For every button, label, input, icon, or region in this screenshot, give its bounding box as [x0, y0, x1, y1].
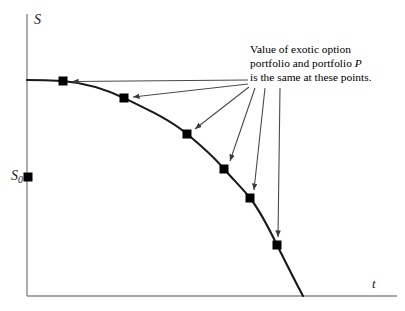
data-markers-group — [24, 77, 282, 250]
figure-container: S t S0 Value of exotic option portfolio … — [0, 0, 405, 311]
data-marker-point-6 — [273, 241, 282, 250]
data-marker-point-2 — [120, 94, 129, 103]
arrow-to-point-5 — [254, 88, 265, 190]
initial-price-label-base: S — [11, 168, 18, 183]
annotation-text: Value of exotic option portfolio and por… — [250, 42, 402, 84]
data-marker-point-5 — [246, 194, 255, 203]
data-marker-point-4 — [220, 165, 229, 174]
initial-price-label: S0 — [11, 169, 23, 185]
asset-price-curve — [27, 80, 303, 296]
data-marker-point-1 — [59, 77, 68, 86]
annotation-line-2-text: portfolio and portfolio — [250, 57, 355, 69]
annotation-arrows-group — [72, 80, 280, 237]
annotation-line-3: is the same at these points. — [250, 70, 402, 84]
annotation-line-2: portfolio and portfolio P — [250, 56, 402, 70]
y-axis-label: S — [34, 13, 41, 27]
x-axis-label: t — [372, 277, 376, 290]
data-marker-initial-price — [24, 173, 33, 182]
arrow-to-point-1 — [72, 80, 248, 82]
curve-group — [27, 80, 303, 296]
arrow-to-point-3 — [195, 87, 249, 129]
arrow-to-point-2 — [133, 84, 248, 97]
annotation-portfolio-symbol: P — [355, 57, 362, 69]
initial-price-label-subscript: 0 — [18, 174, 23, 185]
data-marker-point-3 — [183, 130, 192, 139]
arrow-to-point-6 — [278, 88, 280, 237]
annotation-line-1: Value of exotic option — [250, 42, 402, 56]
